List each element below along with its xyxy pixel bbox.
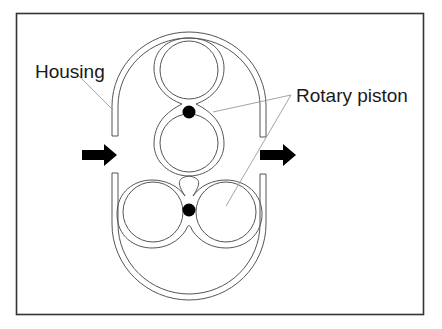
diagram-svg: Housing Rotary piston [0,0,442,329]
diagram-frame [17,14,424,315]
rotary-piston-label: Rotary piston [296,85,408,106]
diagram-canvas: Housing Rotary piston [0,0,442,329]
upper-pivot-dot [183,106,196,119]
housing-label: Housing [35,61,105,82]
lower-pivot-dot [183,204,196,217]
